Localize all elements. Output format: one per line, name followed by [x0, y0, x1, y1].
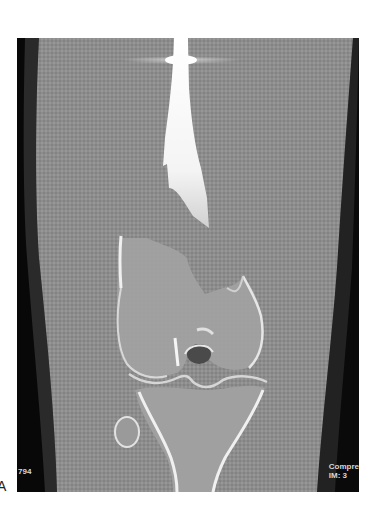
overlay-text-right: CompreIM: 3 — [329, 462, 359, 480]
panel-label: A — [0, 478, 6, 494]
medial-cortex-fragment — [120, 236, 121, 288]
overlay-text-left: 794 — [18, 467, 31, 476]
ct-scan-image: 794 CompreIM: 3 — [17, 38, 359, 492]
overlay-line-1: Compre — [329, 462, 359, 471]
fibular-head — [115, 417, 139, 447]
ct-scan-graphic — [17, 38, 359, 492]
overlay-line-2: IM: 3 — [329, 471, 359, 480]
